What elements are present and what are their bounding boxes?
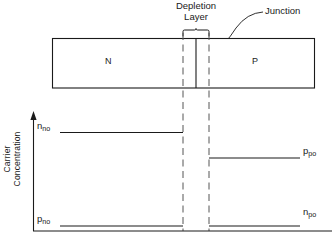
n-region-label: N bbox=[105, 56, 112, 66]
curve-label-p-no-sub: no bbox=[42, 217, 50, 226]
carrier-concentration-curves bbox=[60, 133, 300, 227]
depletion-layer-brace bbox=[183, 29, 209, 37]
curve-label-n-po-sub: po bbox=[308, 210, 316, 219]
y-axis-title-line1: Carrier bbox=[2, 146, 12, 173]
y-axis-title-line2: Concentration bbox=[12, 132, 22, 187]
curve-label-n-po: npo bbox=[303, 207, 316, 218]
p-region-label: P bbox=[252, 56, 258, 66]
curve-label-n-no-sub: no bbox=[42, 124, 50, 133]
curve-label-n-no: nno bbox=[37, 121, 50, 132]
curve-label-p-no: pno bbox=[37, 214, 50, 225]
curve-label-p-po-sub: po bbox=[308, 149, 316, 158]
pn-junction-figure: Depletion Layer Junction N P Carrier Con… bbox=[0, 0, 335, 247]
depletion-layer-label: Depletion Layer bbox=[163, 1, 229, 22]
y-axis-arrowhead bbox=[30, 111, 36, 120]
y-axis-title: Carrier Concentration bbox=[3, 107, 29, 211]
junction-label: Junction bbox=[265, 6, 300, 17]
figure-canvas bbox=[0, 0, 335, 247]
graph-axes bbox=[30, 111, 332, 231]
curve-label-p-po: ppo bbox=[303, 146, 316, 157]
depletion-layer-label-line2: Layer bbox=[163, 12, 229, 23]
